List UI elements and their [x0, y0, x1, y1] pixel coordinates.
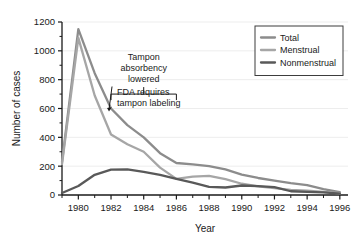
x-axis-ticks: 198019821984198619881990199219941996	[62, 195, 350, 213]
y-tick-label: 800	[39, 74, 55, 85]
annotation-fda-requires-tampon-labeling: FDA requirestampon labeling	[107, 87, 181, 112]
x-tick-label: 1984	[133, 202, 154, 213]
annotation-line: lowered	[128, 74, 160, 84]
x-tick-label: 1992	[264, 202, 285, 213]
x-axis-title: Year	[195, 223, 216, 234]
x-tick-label: 1980	[68, 202, 89, 213]
legend-label-nonmenstrual: Nonmenstrual	[280, 58, 336, 68]
y-tick-label: 400	[39, 132, 55, 143]
x-tick-label: 1986	[166, 202, 187, 213]
x-tick-label: 1994	[297, 202, 318, 213]
line-chart: 0200400600800100012001980198219841986198…	[0, 0, 361, 241]
annotation-line: Tampon	[128, 52, 160, 62]
legend-label-menstrual: Menstrual	[280, 45, 320, 55]
annotation-line: tampon labeling	[117, 98, 181, 108]
x-tick-label: 1990	[231, 202, 252, 213]
y-tick-label: 1200	[34, 16, 55, 27]
annotation-line: absorbency	[120, 63, 167, 73]
y-axis-ticks: 020040060080010001200	[34, 16, 62, 200]
y-tick-label: 0	[50, 189, 55, 200]
chart-figure: 0200400600800100012001980198219841986198…	[0, 0, 361, 241]
x-tick-label: 1982	[100, 202, 121, 213]
chart-legend: TotalMenstrualNonmenstrual	[255, 26, 343, 76]
y-tick-label: 600	[39, 103, 55, 114]
x-tick-label: 1988	[199, 202, 220, 213]
legend-label-total: Total	[280, 33, 299, 43]
x-tick-label: 1996	[329, 202, 350, 213]
annotation-line: FDA requires	[117, 87, 170, 97]
y-axis-title: Number of cases	[11, 71, 22, 147]
y-tick-label: 1000	[34, 45, 55, 56]
y-tick-label: 200	[39, 161, 55, 172]
